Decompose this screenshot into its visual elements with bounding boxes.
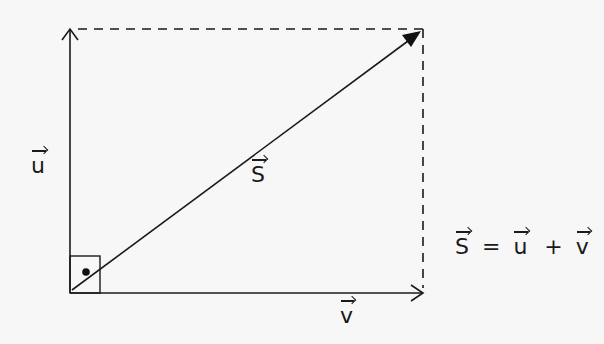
vector-diagram [0, 0, 604, 344]
vector-u-arrow [62, 29, 78, 293]
label-u: u [31, 155, 45, 177]
equation-term-v: v [576, 236, 589, 258]
sum-equation: S = u + v [455, 236, 595, 258]
vector-v-arrow [70, 285, 423, 301]
label-v: v [340, 305, 353, 327]
equation-term-u: u [513, 236, 527, 258]
equation-plus: + [544, 234, 562, 259]
equation-lhs: S [455, 236, 469, 258]
equation-equals: = [482, 234, 500, 259]
label-s: S [251, 164, 265, 186]
vector-s-arrow [72, 31, 421, 290]
